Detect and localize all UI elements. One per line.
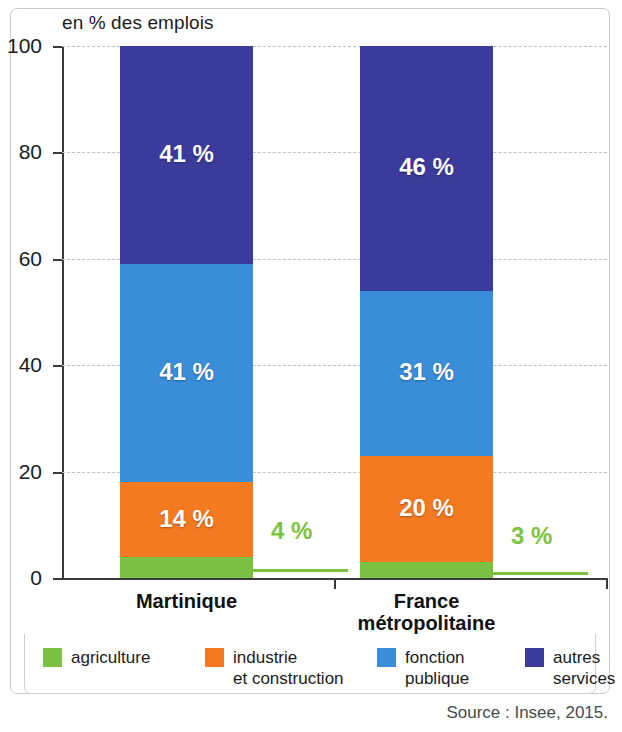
bar-segment-autres[interactable]: 46 % <box>360 46 493 291</box>
agriculture-callout-label: 3 % <box>511 522 552 550</box>
x-axis-tick-label-line: France <box>320 590 533 612</box>
y-tick-mark <box>53 365 62 367</box>
chart-title: en % des emplois <box>62 12 214 34</box>
y-axis-line <box>62 46 64 578</box>
y-axis-tick-label: 0 <box>0 567 42 588</box>
y-tick-mark <box>53 472 62 474</box>
legend-label: industrie et construction <box>233 647 344 690</box>
x-axis-divider-tick <box>334 578 336 589</box>
bar-segment-value-label: 46 % <box>360 153 493 181</box>
y-axis-tick-label: 40 <box>0 354 42 375</box>
y-axis-tick-label: 100 <box>0 35 42 56</box>
y-axis-tick-label: 60 <box>0 248 42 269</box>
bar-segment-agriculture[interactable] <box>360 562 493 578</box>
x-axis-tick-label-line: métropolitaine <box>320 612 533 634</box>
legend-item-autres[interactable]: autres services <box>525 647 615 690</box>
stacked-bar[interactable]: 20 %31 %46 % <box>360 46 493 578</box>
source-note: Source : Insee, 2015. <box>446 703 608 723</box>
bar-segment-value-label: 31 % <box>360 358 493 386</box>
bar-segment-agriculture[interactable] <box>120 557 253 578</box>
stacked-bar[interactable]: 14 %41 %41 % <box>120 46 253 578</box>
legend-item-industrie[interactable]: industrie et construction <box>205 647 344 690</box>
bar-segment-fonction[interactable]: 41 % <box>120 264 253 482</box>
plot-area: 0204060801004 %14 %41 %41 %Martinique3 %… <box>62 46 607 578</box>
bar-segment-autres[interactable]: 41 % <box>120 46 253 264</box>
legend-label: autres services <box>553 647 615 690</box>
legend-item-fonction[interactable]: fonction publique <box>377 647 469 690</box>
x-axis-category-label: Francemétropolitaine <box>320 590 533 635</box>
bar-segment-value-label: 41 % <box>120 140 253 168</box>
legend-item-agriculture[interactable]: agriculture <box>43 647 150 668</box>
legend-label: fonction publique <box>405 647 469 690</box>
bar-segment-value-label: 41 % <box>120 358 253 386</box>
legend-color-swatch <box>525 648 544 667</box>
legend-color-swatch <box>43 648 62 667</box>
bar-segment-value-label: 20 % <box>360 494 493 522</box>
y-tick-mark <box>53 46 62 48</box>
x-axis-category-label: Martinique <box>80 590 293 612</box>
x-axis-tick-label-line: Martinique <box>80 590 293 612</box>
y-tick-mark <box>53 259 62 261</box>
bar-segment-fonction[interactable]: 31 % <box>360 291 493 456</box>
y-tick-mark <box>53 152 62 154</box>
y-axis-tick-label: 80 <box>0 141 42 162</box>
legend-label: agriculture <box>71 647 150 668</box>
agriculture-callout-label: 4 % <box>271 517 312 545</box>
legend-color-swatch <box>205 648 224 667</box>
chart-legend: agricultureindustrie et constructionfonc… <box>24 634 596 694</box>
bar-segment-value-label: 14 % <box>120 505 253 533</box>
legend-color-swatch <box>377 648 396 667</box>
bar-segment-industrie[interactable]: 14 % <box>120 482 253 556</box>
figure-container: en % des emplois 0204060801004 %14 %41 %… <box>0 0 622 732</box>
y-axis-tick-label: 20 <box>0 461 42 482</box>
bar-segment-industrie[interactable]: 20 % <box>360 456 493 562</box>
x-axis-divider-tick <box>606 578 608 589</box>
y-tick-mark <box>53 578 62 580</box>
